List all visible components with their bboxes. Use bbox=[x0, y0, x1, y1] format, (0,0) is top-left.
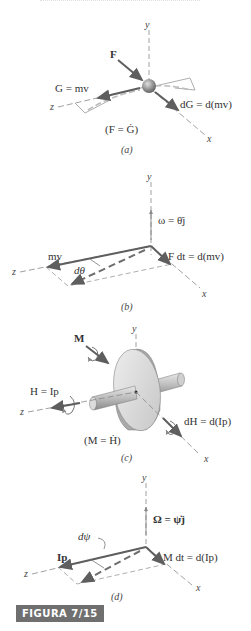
force-label: F bbox=[110, 48, 117, 60]
momentum-vector bbox=[98, 88, 140, 98]
dmomentum-vector bbox=[155, 92, 178, 110]
moment-vector bbox=[86, 346, 108, 363]
angular-momentum-vector bbox=[52, 403, 80, 408]
dmomentum-label: dG = d(mv) bbox=[180, 98, 232, 111]
particle-sphere bbox=[142, 79, 156, 93]
angular-impulse-label: M dt = d(Ip) bbox=[163, 551, 218, 564]
x-axis-label: x bbox=[203, 453, 209, 464]
dtheta-arc bbox=[90, 259, 100, 266]
angular-impulse-vector bbox=[146, 547, 164, 564]
Omega-label: Ω = ψ̇j bbox=[153, 513, 185, 525]
disk-face bbox=[109, 346, 166, 434]
z-axis-label: z bbox=[11, 266, 16, 277]
panel-b: y ω = θ̇j z x mv dθ F dt = d(mv) bbox=[0, 160, 251, 305]
panel-a-caption: (a) bbox=[121, 144, 133, 156]
x-axis-label: x bbox=[201, 288, 207, 299]
y-axis-label: y bbox=[144, 19, 150, 30]
vector-parallelogram bbox=[58, 564, 166, 584]
mv-label: mv bbox=[48, 250, 63, 262]
y-axis-label: y bbox=[141, 472, 147, 483]
moment-label: M bbox=[74, 332, 85, 344]
z-axis-label: z bbox=[23, 568, 28, 579]
dH-vector bbox=[163, 418, 181, 436]
panel-c-caption: (c) bbox=[121, 452, 133, 464]
dH-label: dH = d(Ip) bbox=[184, 415, 231, 428]
euler-law-label: (M = Ḣ) bbox=[84, 434, 121, 447]
force-vector bbox=[118, 60, 142, 80]
y-axis-label: y bbox=[131, 323, 137, 334]
Ip-vector bbox=[60, 547, 146, 567]
mv-vector bbox=[48, 246, 151, 267]
omega-label: ω = θ̇j bbox=[158, 214, 185, 226]
newton-law-label: (F = Ġ) bbox=[105, 123, 138, 136]
y-axis-label: y bbox=[146, 171, 152, 182]
x-axis-label: x bbox=[195, 582, 201, 593]
panel-c: (b) y z x H = Ip M dH = d(Ip) (M = Ḣ) (c… bbox=[0, 300, 251, 470]
impulse-label: F dt = d(mv) bbox=[168, 250, 224, 263]
dtheta-label: dθ bbox=[74, 264, 86, 276]
z-axis-label: z bbox=[19, 406, 24, 417]
dpsi-label: dψ bbox=[78, 530, 91, 542]
panel-d-caption: (d) bbox=[111, 591, 123, 603]
panel-a: y z x F G = mv dG = d(mv) (F = Ġ) (a) bbox=[0, 0, 251, 160]
dpsi-arc bbox=[98, 538, 105, 549]
momentum-label: G = mv bbox=[55, 82, 89, 94]
figure-label-badge: FIGURA 7/15 bbox=[16, 605, 104, 622]
panel-b-caption: (b) bbox=[121, 301, 133, 313]
Ip-label: Ip bbox=[57, 551, 67, 563]
x-axis-label: x bbox=[206, 133, 212, 144]
z-axis-label: z bbox=[49, 101, 54, 112]
angular-momentum-label: H = Ip bbox=[30, 385, 59, 397]
panel-d: y Ω = ψ̇j z x Ip dψ M dt = d(Ip) (d) bbox=[0, 465, 251, 605]
